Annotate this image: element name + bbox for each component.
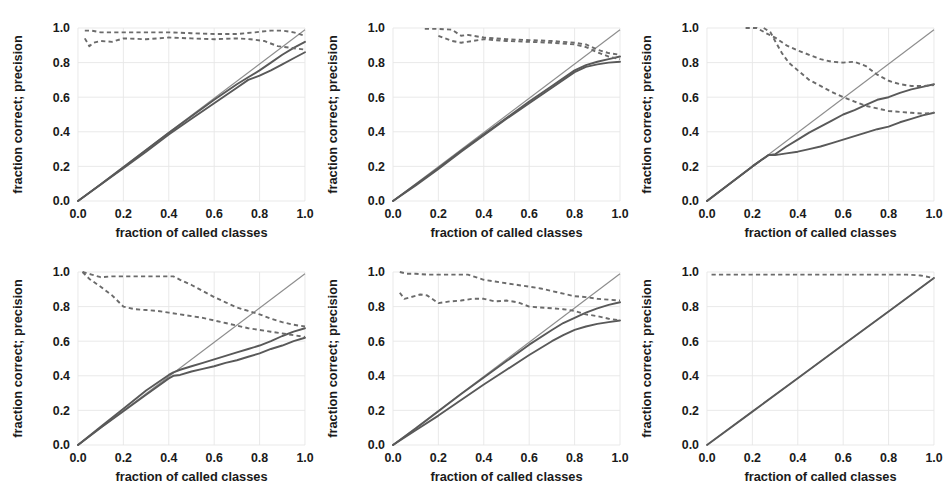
y-tick-label: 0.4 — [682, 369, 699, 383]
x-tick-label: 0.8 — [251, 450, 268, 464]
chart-panel-3: 0.00.20.40.60.81.00.00.20.40.60.81.0frac… — [629, 0, 944, 244]
y-tick-label: 0.8 — [682, 300, 699, 314]
y-tick-label: 0.4 — [53, 125, 70, 139]
solid-curve-fraction-correct-upper — [78, 328, 305, 445]
y-tick-label: 1.0 — [682, 265, 699, 279]
y-tick-label: 0.2 — [682, 403, 699, 417]
y-tick-label: 0.8 — [367, 300, 384, 314]
y-tick-label: 0.2 — [53, 403, 70, 417]
y-tick-label: 0.6 — [367, 91, 384, 105]
x-tick-label: 1.0 — [926, 207, 943, 221]
solid-curve-fraction-correct-upper — [393, 57, 620, 201]
y-tick-label: 0.2 — [367, 160, 384, 174]
x-tick-label: 0.2 — [429, 207, 446, 221]
y-axis-title: fraction correct; precision — [325, 35, 340, 194]
x-tick-label: 0.6 — [206, 207, 223, 221]
x-tick-label: 1.0 — [611, 207, 628, 221]
y-tick-label: 0.4 — [682, 125, 699, 139]
x-tick-label: 0.4 — [160, 207, 177, 221]
x-axis-title: fraction of called classes — [430, 225, 582, 240]
x-axis-title: fraction of called classes — [745, 468, 897, 483]
y-tick-label: 0.8 — [53, 56, 70, 70]
y-tick-label: 1.0 — [53, 265, 70, 279]
y-tick-label: 0.2 — [53, 160, 70, 174]
y-tick-label: 0.4 — [367, 369, 384, 383]
x-tick-label: 0.0 — [384, 451, 401, 465]
figure-panel-grid: 0.00.20.40.60.81.00.00.20.40.60.81.0frac… — [0, 0, 944, 487]
solid-curve-fraction-correct — [707, 278, 934, 445]
x-tick-label: 0.6 — [835, 207, 852, 221]
y-axis-title: fraction correct; precision — [639, 35, 654, 194]
x-tick-label: 0.8 — [880, 450, 897, 464]
x-tick-label: 0.8 — [566, 451, 583, 465]
x-tick-label: 1.0 — [926, 450, 943, 464]
y-tick-label: 0.6 — [682, 91, 699, 105]
y-tick-label: 0.8 — [367, 56, 384, 70]
x-tick-label: 0.6 — [520, 451, 537, 465]
x-tick-label: 0.4 — [160, 450, 177, 464]
y-tick-label: 0.0 — [682, 194, 699, 208]
dashed-curve-precision-lower — [85, 38, 305, 50]
chart-panel-5: 0.00.20.40.60.81.00.00.20.40.60.81.0frac… — [315, 244, 630, 487]
y-tick-label: 1.0 — [682, 21, 699, 35]
x-tick-label: 1.0 — [296, 450, 313, 464]
y-tick-label: 1.0 — [53, 21, 70, 35]
solid-curve-fraction-correct-lower — [393, 320, 620, 445]
x-tick-label: 0.4 — [790, 207, 807, 221]
x-tick-label: 0.0 — [69, 207, 86, 221]
y-tick-label: 0.0 — [53, 194, 70, 208]
chart-panel-2: 0.00.20.40.60.81.00.00.20.40.60.81.0frac… — [315, 0, 630, 244]
y-axis-title: fraction correct; precision — [639, 279, 654, 438]
x-tick-label: 0.0 — [384, 207, 401, 221]
y-tick-label: 0.0 — [53, 438, 70, 452]
x-tick-label: 0.2 — [115, 450, 132, 464]
x-tick-label: 0.6 — [835, 450, 852, 464]
x-tick-label: 0.0 — [69, 450, 86, 464]
x-axis-title: fraction of called classes — [115, 468, 267, 483]
y-tick-label: 0.6 — [53, 91, 70, 105]
y-tick-label: 0.6 — [53, 334, 70, 348]
y-tick-label: 0.2 — [367, 403, 384, 417]
x-tick-label: 1.0 — [296, 207, 313, 221]
y-axis-title: fraction correct; precision — [10, 35, 25, 194]
y-axis-title: fraction correct; precision — [10, 279, 25, 438]
x-tick-label: 0.0 — [699, 207, 716, 221]
x-axis-title: fraction of called classes — [745, 225, 897, 240]
y-tick-label: 0.0 — [682, 438, 699, 452]
y-tick-label: 0.6 — [682, 334, 699, 348]
dashed-curve-precision-upper — [399, 272, 619, 301]
x-tick-label: 0.4 — [475, 207, 492, 221]
x-tick-label: 0.2 — [744, 207, 761, 221]
solid-curve-fraction-correct-lower — [78, 337, 305, 444]
y-tick-label: 0.8 — [682, 56, 699, 70]
chart-panel-1: 0.00.20.40.60.81.00.00.20.40.60.81.0frac… — [0, 0, 315, 244]
x-tick-label: 0.8 — [566, 207, 583, 221]
dashed-curve-precision-lower — [83, 272, 305, 337]
chart-panel-6: 0.00.20.40.60.81.00.00.20.40.60.81.0frac… — [629, 244, 944, 487]
y-tick-label: 0.4 — [53, 369, 70, 383]
y-tick-label: 0.0 — [367, 195, 384, 209]
x-tick-label: 0.4 — [790, 450, 807, 464]
solid-curve-fraction-correct-upper — [707, 84, 934, 201]
y-tick-label: 1.0 — [367, 265, 384, 279]
x-tick-label: 0.0 — [699, 450, 716, 464]
x-tick-label: 0.6 — [520, 207, 537, 221]
y-tick-label: 0.8 — [53, 300, 70, 314]
y-tick-label: 0.6 — [367, 334, 384, 348]
y-tick-label: 1.0 — [367, 22, 384, 36]
x-tick-label: 0.6 — [206, 450, 223, 464]
dashed-curve-precision-upper — [746, 28, 934, 86]
solid-curve-fraction-correct-lower — [78, 52, 305, 201]
x-tick-label: 0.8 — [880, 207, 897, 221]
x-tick-label: 0.8 — [251, 207, 268, 221]
x-axis-title: fraction of called classes — [430, 469, 582, 484]
dashed-curve-precision-upper — [85, 31, 305, 36]
chart-panel-4: 0.00.20.40.60.81.00.00.20.40.60.81.0frac… — [0, 244, 315, 487]
dashed-curve-precision-lower — [764, 28, 934, 114]
y-tick-label: 0.0 — [367, 438, 384, 452]
y-tick-label: 0.4 — [367, 125, 384, 139]
x-tick-label: 0.2 — [115, 207, 132, 221]
dashed-curve-precision — [712, 274, 934, 277]
x-tick-label: 0.2 — [744, 450, 761, 464]
y-axis-title: fraction correct; precision — [325, 279, 340, 438]
